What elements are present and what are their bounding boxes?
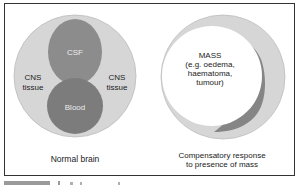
compensatory-caption-line1: Compensatory response	[178, 151, 266, 160]
blood-label: Blood	[65, 103, 85, 112]
normal-brain-caption: Normal brain	[51, 154, 100, 164]
csf-label: CSF	[67, 48, 83, 57]
mass-label-line3: haematoma,	[188, 69, 232, 78]
figure-label-bar	[4, 181, 50, 185]
mass-label-line2: (e.g. oedema,	[185, 60, 234, 69]
cns-tissue-left-label-line2: tissue	[23, 83, 44, 92]
compensatory-response-panel: MASS (e.g. oedema, haematoma, tumour) Co…	[161, 15, 285, 169]
normal-brain-panel: CSF Blood CNS tissue CNS tissue Normal b…	[14, 15, 136, 164]
mass-label-line1: MASS	[199, 51, 222, 60]
mass-label-line4: tumour)	[196, 78, 224, 87]
brain-compartments-diagram: CSF Blood CNS tissue CNS tissue Normal b…	[0, 0, 299, 188]
truncated-caption-text	[58, 180, 178, 186]
cns-tissue-left-label-line1: CNS	[25, 73, 42, 82]
compensatory-caption-line2: to presence of mass	[186, 160, 258, 169]
cns-tissue-right-label-line2: tissue	[107, 83, 128, 92]
cns-tissue-right-label-line1: CNS	[109, 73, 126, 82]
